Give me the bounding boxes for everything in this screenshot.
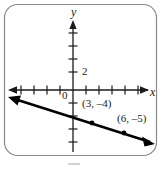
data-point-3-neg4 — [90, 121, 95, 126]
graph-figure: y x 0 2 (3, –4) (6, –5) — [0, 0, 164, 170]
y-axis-label: y — [71, 6, 76, 18]
y-axis-up-arrow-icon — [69, 20, 76, 29]
origin-label: 0 — [62, 90, 68, 101]
figure-frame — [5, 5, 157, 156]
coordinate-plane-svg — [0, 0, 164, 170]
point-label-3-neg4: (3, –4) — [82, 98, 111, 109]
data-point-6-neg5 — [122, 131, 127, 136]
x-axis-label: x — [150, 86, 155, 98]
line-right-arrow-icon — [142, 137, 155, 147]
x-tick-label-2: 2 — [82, 66, 88, 77]
x-axis-right-arrow-icon — [140, 86, 149, 94]
line-left-arrow-icon — [8, 96, 21, 106]
point-label-6-neg5: (6, –5) — [117, 113, 146, 124]
x-axis-left-arrow-icon — [8, 86, 17, 94]
